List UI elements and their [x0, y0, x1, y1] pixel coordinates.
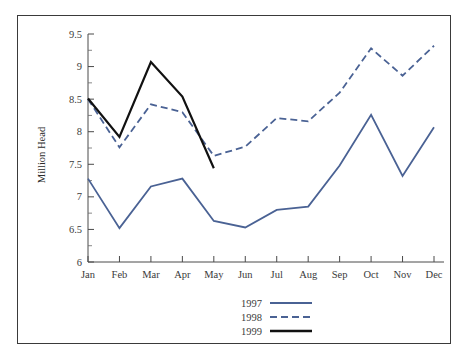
- legend-label-1997: 1997: [241, 298, 262, 309]
- x-tick-label: Apr: [174, 269, 191, 280]
- series-line-1998: [88, 46, 434, 156]
- data-series: [88, 46, 434, 228]
- x-tick-label: May: [204, 269, 224, 280]
- x-tick-label: Mar: [142, 269, 160, 280]
- axes: [88, 34, 444, 262]
- x-tick-label: Feb: [112, 269, 128, 280]
- x-tick-label: Dec: [426, 269, 443, 280]
- x-tick-label: Jan: [81, 269, 96, 280]
- y-tick-label: 8: [77, 126, 82, 137]
- y-tick-label: 9: [77, 61, 82, 72]
- series-line-1997: [88, 115, 434, 228]
- x-tick-label: Jun: [238, 269, 253, 280]
- y-tick-label: 8.5: [69, 94, 82, 105]
- y-axis-title: Million Head: [36, 126, 47, 183]
- line-chart: 66.577.588.599.5JanFebMarAprMayJunJulAug…: [0, 0, 470, 357]
- legend-label-1998: 1998: [241, 312, 262, 323]
- y-tick-label: 6.5: [69, 224, 82, 235]
- chart-legend: 199719981999: [241, 298, 312, 337]
- y-tick-label: 7.5: [69, 159, 82, 170]
- y-tick-label: 9.5: [69, 29, 82, 40]
- y-tick-label: 6: [77, 257, 82, 268]
- x-tick-label: Oct: [364, 269, 379, 280]
- x-tick-label: Sep: [332, 269, 348, 280]
- x-tick-label: Nov: [393, 269, 412, 280]
- y-tick-label: 7: [77, 191, 82, 202]
- chart-plot-area: 66.577.588.599.5JanFebMarAprMayJunJulAug…: [0, 0, 470, 357]
- x-tick-label: Jul: [271, 269, 283, 280]
- y-axis-title-text: Million Head: [36, 126, 47, 183]
- tick-labels: 66.577.588.599.5JanFebMarAprMayJunJulAug…: [69, 29, 443, 280]
- legend-label-1999: 1999: [241, 326, 262, 337]
- series-line-1999: [88, 62, 214, 168]
- x-tick-label: Aug: [299, 269, 318, 280]
